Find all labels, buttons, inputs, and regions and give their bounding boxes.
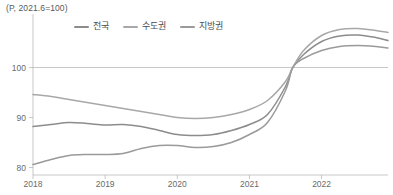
series-line-2 [33, 46, 388, 165]
x-tick-label-2020: 2020 [157, 180, 197, 189]
x-tick-label-2021: 2021 [229, 180, 269, 189]
x-tick-label-2018: 2018 [13, 180, 53, 189]
series-line-1 [33, 28, 388, 118]
plot-area [0, 0, 393, 195]
series-line-0 [33, 35, 388, 136]
series-lines [33, 28, 388, 164]
y-tick-label-80: 80 [2, 164, 26, 173]
x-tick-label-2019: 2019 [85, 180, 125, 189]
axis-lines [33, 14, 388, 175]
y-tick-label-90: 90 [2, 114, 26, 123]
price-index-line-chart: (P, 2021.6=100) 전국 수도권 지방권 8090100 20182… [0, 0, 393, 195]
y-tick-label-100: 100 [2, 64, 26, 73]
x-tick-label-2022: 2022 [302, 180, 342, 189]
